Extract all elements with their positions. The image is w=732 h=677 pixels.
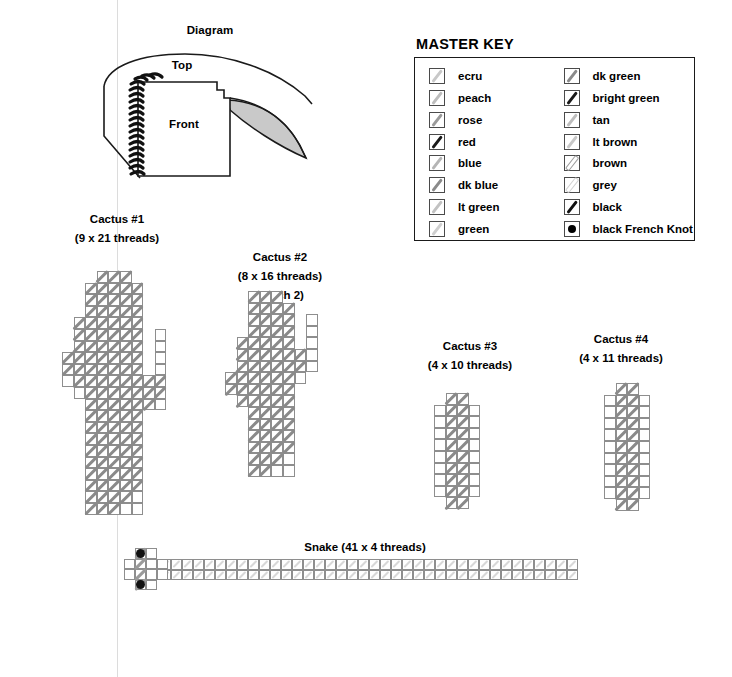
snake-body-cell [512,570,523,581]
chart-cell [120,375,132,387]
snake-body-cell [490,570,501,581]
chart-cell [260,291,272,303]
snake-body-cell [556,559,567,570]
chart-cell [108,329,120,341]
caption-line: Snake (41 x 4 threads) [265,538,465,557]
chart-cell [97,399,109,411]
chart-cell [283,384,295,396]
chart-cell [97,306,109,318]
chart-cell [97,387,109,399]
chart-cell [132,422,144,434]
snake-body-cell [457,570,468,581]
chart-cell [469,416,481,428]
charts-layer: Cactus #1(9 x 21 threads)Cactus #2(8 x 1… [0,0,732,677]
chart-cell [260,361,272,373]
snake-body-cell [479,559,490,570]
chart-cell [132,375,144,387]
chart-cell [143,375,155,387]
chart-cell [132,480,144,492]
snake-body-cell [567,570,578,581]
chart-cell [271,326,283,338]
chart-cell [120,283,132,295]
chart-cell [271,303,283,315]
snake-body-cell [303,570,314,581]
snake-body-cell [171,559,182,570]
chart-cell [271,361,283,373]
chart-cell [85,491,97,503]
snake-body-cell [303,559,314,570]
chart-cell [85,433,97,445]
chart-cell [260,303,272,315]
chart-cell [627,464,639,476]
chart-cell [85,306,97,318]
chart-cell [237,337,249,349]
snake-body-cell [248,570,259,581]
chart-cell [62,375,74,387]
chart-cell [132,503,144,515]
chart-cell [469,474,481,486]
snake-body-cell [424,559,435,570]
chart-cell [85,341,97,353]
chart-cell [155,375,167,387]
chart-cell [248,442,260,454]
snake-body-cell [336,570,347,581]
snake-eye-french-knot [136,549,145,558]
chart-cell [225,372,237,384]
chart-cell [260,465,272,477]
snake-body-cell [204,559,215,570]
chart-cell [85,399,97,411]
chart-cell [248,326,260,338]
chart-cell [85,445,97,457]
chart-cell [604,453,616,465]
snake-body-cell [226,559,237,570]
chart-cell [271,453,283,465]
chart-cell [225,384,237,396]
chart-cell [604,487,616,499]
chart-cell [616,406,628,418]
snake-body-cell [457,559,468,570]
chart-cell [85,503,97,515]
cactus-4-grid [604,383,650,511]
chart-cell [248,372,260,384]
chart-cell [97,375,109,387]
snake-body-cell [292,570,303,581]
chart-cell [120,410,132,422]
chart-cell [85,283,97,295]
snake-body-cell [237,559,248,570]
chart-cell [85,329,97,341]
snake-body-cell [347,559,358,570]
chart-cell [271,442,283,454]
caption-line: (8 x 16 threads) [180,267,380,286]
snake-body-cell [468,559,479,570]
chart-cell [120,503,132,515]
snake-body-cell [171,570,182,581]
chart-cell [639,476,651,488]
chart-cell [74,387,86,399]
chart-cell [283,349,295,361]
chart-cell [283,419,295,431]
chart-cell [260,442,272,454]
snake-body-cell [237,570,248,581]
chart-cell [271,291,283,303]
snake-body-cell [259,570,270,581]
chart-cell [469,405,481,417]
chart-cell [639,406,651,418]
chart-cell [283,303,295,315]
chart-cell [248,407,260,419]
chart-cell [283,361,295,373]
chart-cell [132,329,144,341]
chart-cell [639,418,651,430]
chart-cell [74,375,86,387]
chart-cell [120,329,132,341]
snake-head-cell [157,559,168,570]
chart-cell [237,349,249,361]
chart-cell [469,439,481,451]
chart-cell [108,468,120,480]
chart-cell [108,294,120,306]
chart-cell [627,487,639,499]
chart-cell [306,314,318,326]
chart-cell [62,364,74,376]
chart-cell [306,326,318,338]
chart-cell [446,463,458,475]
chart-cell [446,497,458,509]
